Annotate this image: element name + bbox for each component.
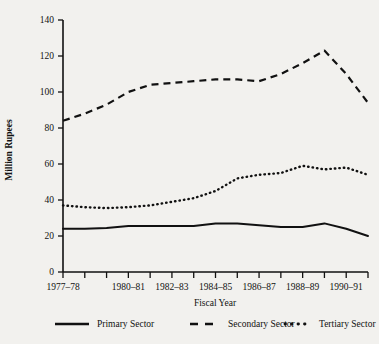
y-axis-title: Million Rupees [4, 119, 14, 181]
x-axis-tick-label: 1977–78 [46, 282, 80, 292]
x-axis-tick-label: 1990–91 [330, 282, 364, 292]
y-axis-tick-label: 20 [45, 231, 55, 241]
series-line-tertiary-sector [63, 166, 368, 208]
y-axis-tick-label: 140 [40, 15, 55, 25]
y-axis: 020406080100120140 [40, 15, 63, 277]
x-axis-tick-label: 1986–87 [242, 282, 276, 292]
legend-item-solid: Primary Sector [55, 319, 155, 329]
x-axis-tick-label: 1982–83 [155, 282, 189, 292]
y-axis-tick-label: 100 [40, 87, 55, 97]
series-line-primary-sector [63, 223, 368, 236]
x-axis-title: Fiscal Year [194, 298, 237, 308]
y-axis-tick-label: 60 [45, 159, 55, 169]
legend-item-dotted: Tertiary Sector [285, 319, 376, 329]
x-axis: 1977–781980–811982–831984–851986–871988–… [46, 272, 368, 292]
y-axis-tick-label: 80 [45, 123, 55, 133]
legend-item-dashed: Secondary Sector [190, 319, 296, 329]
legend-label-dotted: Tertiary Sector [319, 319, 376, 329]
x-axis-tick-label: 1988–89 [286, 282, 320, 292]
x-axis-tick-label: 1980–81 [112, 282, 146, 292]
line-chart: 020406080100120140 1977–781980–811982–83… [0, 0, 379, 344]
legend-label-solid: Primary Sector [97, 319, 155, 329]
chart-legend: Primary SectorSecondary SectorTertiary S… [55, 319, 376, 329]
chart-canvas: 020406080100120140 1977–781980–811982–83… [0, 0, 379, 344]
y-axis-tick-label: 120 [40, 51, 55, 61]
x-axis-tick-label: 1984–85 [199, 282, 233, 292]
y-axis-tick-label: 40 [45, 195, 55, 205]
series-line-secondary-sector [63, 51, 368, 121]
y-axis-tick-label: 0 [49, 267, 54, 277]
